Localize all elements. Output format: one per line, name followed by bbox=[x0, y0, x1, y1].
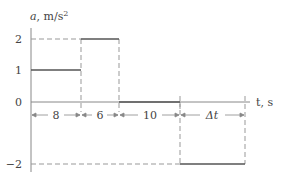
x-axis-label: t, s bbox=[256, 96, 273, 109]
duration-label-1: 8 bbox=[53, 109, 60, 122]
diagram-canvas: a, m/s2 t, s 2 1 0 −2 8 6 10 Δt bbox=[0, 0, 290, 180]
acceleration-time-diagram: a, m/s2 t, s 2 1 0 −2 8 6 10 Δt bbox=[0, 0, 290, 180]
duration-label-4: Δt bbox=[205, 109, 219, 122]
y-axis-label: a, m/s2 bbox=[30, 9, 68, 23]
duration-label-3: 10 bbox=[143, 109, 157, 122]
y-tick-0: 0 bbox=[15, 96, 22, 109]
duration-label-2: 6 bbox=[97, 109, 104, 122]
y-tick-2: 2 bbox=[15, 33, 22, 46]
y-tick-1: 1 bbox=[15, 64, 22, 77]
y-tick-neg2: −2 bbox=[6, 158, 22, 171]
